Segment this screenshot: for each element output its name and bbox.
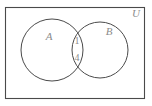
set-a-circle	[21, 19, 83, 81]
set-b-circle	[72, 22, 128, 78]
universal-set-label: U	[132, 7, 141, 19]
venn-diagram-canvas: U A B 1 4	[0, 0, 152, 106]
set-a-label: A	[45, 30, 53, 42]
intersection-value-lower: 4	[75, 52, 80, 63]
venn-diagram-figure: U A B 1 4	[0, 0, 152, 106]
set-b-label: B	[106, 25, 113, 37]
intersection-value-upper: 1	[75, 35, 80, 46]
